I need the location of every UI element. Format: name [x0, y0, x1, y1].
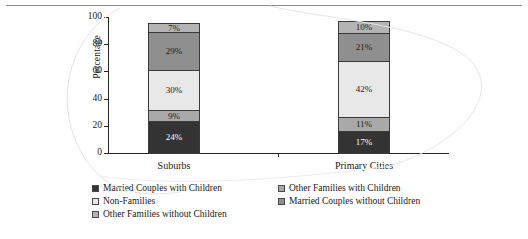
- y-tick-label: 40: [93, 94, 103, 104]
- stacked-bar-chart: 100 80 60 40 20 0 Percentage 7%29%30%9%2…: [0, 0, 528, 239]
- legend-swatch-icon: [92, 185, 99, 192]
- bar-segment-label: 29%: [166, 47, 183, 56]
- bar-segment-label: 17%: [356, 138, 373, 147]
- bar-segment[interactable]: 24%: [148, 121, 200, 154]
- legend-swatch-icon: [92, 211, 99, 218]
- y-axis-title: Percentage: [92, 22, 102, 92]
- bar-segment[interactable]: 10%: [338, 21, 390, 35]
- x-label-primary-cities: Primary Cities: [304, 160, 424, 171]
- legend-item[interactable]: Married Couples with Children: [92, 184, 278, 194]
- legend-swatch-icon: [92, 198, 99, 205]
- bar-suburbs[interactable]: 7%29%30%9%24%: [148, 23, 200, 153]
- bar-segment-label: 24%: [166, 133, 183, 142]
- bar-segment-label: 21%: [356, 43, 373, 52]
- legend-row: Married Couples with ChildrenOther Famil…: [92, 182, 492, 195]
- bar-segment-label: 42%: [356, 85, 373, 94]
- legend-item-label: Married Couples without Children: [289, 197, 420, 207]
- bar-segment[interactable]: 29%: [148, 32, 200, 71]
- legend-item-label: Married Couples with Children: [103, 184, 222, 194]
- y-tick-label: 0: [97, 148, 102, 158]
- y-tick-label: 20: [93, 121, 103, 131]
- bar-primary-cities[interactable]: 10%21%42%11%17%: [338, 21, 390, 153]
- legend-item[interactable]: Married Couples without Children: [278, 197, 420, 207]
- x-tick-mid: [278, 153, 279, 157]
- bar-segment-label: 10%: [356, 23, 373, 32]
- chart-legend: Married Couples with ChildrenOther Famil…: [92, 182, 492, 221]
- legend-item-label: Other Families with Children: [289, 184, 401, 194]
- bar-segment[interactable]: 17%: [338, 131, 390, 154]
- legend-row: Other Families without Children: [92, 208, 492, 221]
- legend-item[interactable]: Other Families without Children: [92, 210, 278, 220]
- legend-item-label: Other Families without Children: [103, 210, 227, 220]
- bar-segment[interactable]: 21%: [338, 33, 390, 62]
- bar-segment-label: 30%: [166, 86, 183, 95]
- legend-swatch-icon: [278, 185, 285, 192]
- bar-segment[interactable]: 42%: [338, 61, 390, 118]
- legend-item-label: Non-Families: [103, 197, 155, 207]
- bar-segment-label: 9%: [168, 112, 180, 121]
- plot-area: 7%29%30%9%24% 10%21%42%11%17%: [108, 17, 448, 153]
- legend-item[interactable]: Non-Families: [92, 197, 278, 207]
- legend-swatch-icon: [278, 198, 285, 205]
- bar-segment-label: 11%: [356, 120, 372, 129]
- legend-item[interactable]: Other Families with Children: [278, 184, 401, 194]
- bar-segment[interactable]: 30%: [148, 70, 200, 111]
- x-label-suburbs: Suburbs: [114, 160, 234, 171]
- legend-row: Non-FamiliesMarried Couples without Chil…: [92, 195, 492, 208]
- bar-segment[interactable]: 11%: [338, 117, 390, 132]
- y-tick-label: 100: [88, 12, 102, 22]
